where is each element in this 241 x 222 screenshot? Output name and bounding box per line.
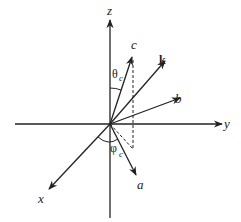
x-axis [49,124,110,189]
theta-symbol: θ [112,67,118,81]
vector-k [110,61,165,124]
phi-subscript: c [119,149,123,159]
vector-b-label: b [175,91,182,106]
theta-arc [110,88,121,90]
coordinate-diagram: z y x c k b a θ c φ c [0,0,241,222]
vector-a-label: a [137,177,144,192]
vector-c-label: c [131,37,137,52]
theta-subscript: c [119,73,123,83]
y-axis-label: y [222,116,230,131]
phi-symbol: φ [110,141,117,155]
z-axis-label: z [106,3,112,18]
x-axis-label: x [37,191,44,206]
vector-k-label: k [159,53,166,67]
